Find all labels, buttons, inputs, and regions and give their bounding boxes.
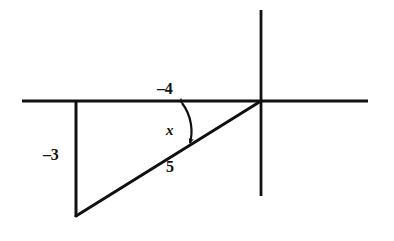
trigonometry-figure: –4 –3 5 x bbox=[0, 0, 394, 241]
adjacent-leg-label: –4 bbox=[157, 81, 173, 97]
figure-canvas bbox=[0, 0, 394, 241]
angle-arc-icon bbox=[182, 103, 191, 143]
hypotenuse-label: 5 bbox=[166, 159, 174, 175]
angle-label: x bbox=[166, 123, 174, 138]
opposite-leg-label: –3 bbox=[43, 147, 59, 163]
